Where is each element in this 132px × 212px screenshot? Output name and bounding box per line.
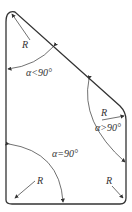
label-r-right: R (100, 107, 107, 118)
label-r-bottom-left: R (36, 175, 43, 186)
label-angle-right: α>90° (95, 122, 121, 133)
angle-arc-right (88, 79, 126, 162)
label-r-top-left: R (21, 39, 28, 50)
corner-radius-diagram: R α<90° R α>90° α=90° R R (0, 0, 132, 212)
angle-arc-top-left (8, 46, 54, 69)
radius-arrow-bottom-left (15, 181, 35, 198)
label-r-bottom-right: R (105, 175, 112, 186)
radius-arrow-bottom-right (112, 186, 123, 198)
label-angle-bottom-left: α=90° (52, 148, 78, 159)
diagram-canvas: R α<90° R α>90° α=90° R R (0, 0, 132, 212)
label-angle-top-left: α<90° (26, 67, 52, 78)
